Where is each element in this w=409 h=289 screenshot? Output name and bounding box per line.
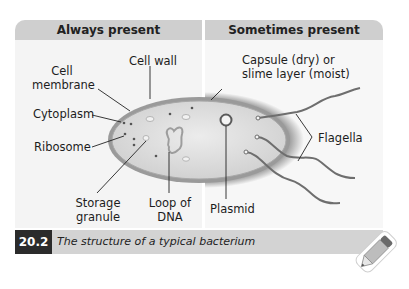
figure-caption-text: The structure of a typical bacterium [57,230,255,254]
cell-wall-label: Cell wall [129,54,177,68]
figure-number: 20.2 [15,230,52,254]
loop-of-dna-label-line1: Loop of [142,196,198,210]
figure-caption: 20.2 The structure of a typical bacteriu… [15,230,383,254]
capsule-label-line1: Capsule (dry) or [242,53,335,67]
storage-granule-label-line2: granule [70,210,126,224]
cytoplasm-label: Cytoplasm [33,107,94,121]
loop-of-dna-label-line2: DNA [142,210,198,224]
cell-membrane-label-line1: Cell [36,64,88,78]
plasmid [221,115,232,126]
storage-granule-label-line1: Storage [70,196,126,210]
ribosome-label: Ribosome [34,140,91,154]
cell-membrane-label-line2: membrane [32,78,94,92]
cytoplasm [112,101,286,179]
capsule-label-line2: slime layer (moist) [242,67,350,81]
plasmid-label: Plasmid [210,202,255,216]
flagella-label: Flagella [318,131,363,145]
pencil-icon[interactable] [347,230,397,282]
